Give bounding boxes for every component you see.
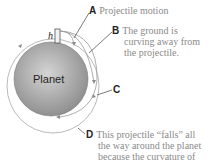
arrow-icon — [72, 42, 76, 46]
callout-letter: C — [113, 84, 120, 95]
height-label: h — [48, 30, 53, 41]
arrow-icon — [92, 94, 96, 98]
leader-b — [89, 32, 112, 53]
callout-letter: A — [89, 5, 96, 16]
leader-c — [97, 90, 112, 95]
callout-d: DThis projectile “falls” all the way aro… — [86, 129, 201, 162]
leader-a — [74, 13, 89, 38]
arrow-icon — [92, 80, 96, 84]
callout-letter: B — [112, 25, 119, 36]
leader-d — [78, 128, 85, 134]
tower — [55, 29, 60, 43]
callout-c: C — [113, 84, 123, 95]
planet-label: Planet — [33, 73, 64, 85]
callout-letter: D — [86, 129, 93, 140]
callout-a: AProjectile motion — [89, 5, 168, 16]
arrow-icon — [18, 44, 22, 48]
callout-b: BThe ground is curving away from the pro… — [112, 25, 200, 58]
